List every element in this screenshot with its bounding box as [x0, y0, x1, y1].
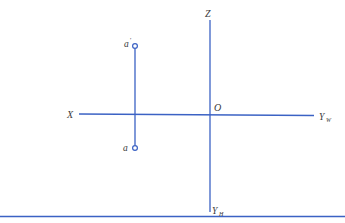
- point-a-label: a: [123, 143, 128, 153]
- svg-text:W: W: [326, 117, 332, 123]
- yw-axis-label: Y W: [319, 112, 332, 123]
- yh-axis-label: Y H: [212, 206, 224, 217]
- svg-text:a: a: [124, 39, 129, 49]
- x-axis-label: X: [66, 109, 74, 120]
- origin-label: O: [214, 102, 221, 113]
- projection-diagram: Z X O Y W Y H a ′ a: [0, 0, 345, 223]
- svg-text:Y: Y: [212, 206, 219, 216]
- svg-text:H: H: [218, 211, 224, 217]
- z-axis-label: Z: [205, 8, 211, 19]
- point-a-prime-label: a ′: [124, 36, 132, 49]
- point-a-icon: [133, 146, 138, 151]
- svg-text:Y: Y: [319, 112, 326, 122]
- svg-text:′: ′: [130, 36, 132, 44]
- point-a-prime-icon: [133, 44, 138, 49]
- horizontal-axis-x-yw: [79, 114, 314, 116]
